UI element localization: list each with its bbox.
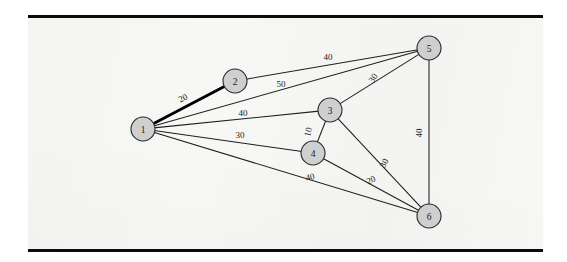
- graph-edge-1-6: [154, 132, 419, 213]
- node-layer: 123456: [131, 36, 441, 228]
- graph-node-1: 1: [131, 117, 155, 141]
- edge-weight-3-6: 30: [377, 156, 390, 169]
- edge-weight-4-6: 20: [365, 173, 378, 186]
- node-label-5: 5: [427, 44, 432, 54]
- graph-edge-1-4: [154, 131, 302, 152]
- node-label-4: 4: [311, 149, 316, 159]
- graph-edge-3-4: [317, 120, 326, 143]
- graph-edge-1-3: [154, 111, 319, 128]
- edge-layer: [153, 50, 429, 213]
- graph-canvas: 2040503040103030204040 123456: [0, 0, 567, 262]
- graph-node-5: 5: [417, 36, 441, 60]
- edge-weight-1-4: 30: [236, 130, 246, 140]
- node-label-3: 3: [328, 106, 333, 116]
- graph-node-3: 3: [318, 98, 342, 122]
- node-label-2: 2: [233, 77, 238, 87]
- graph-edge-1-2: [153, 86, 225, 124]
- edge-weight-1-3: 40: [239, 108, 249, 118]
- edge-weight-1-2: 20: [177, 91, 190, 104]
- edge-weight-2-5: 40: [324, 52, 334, 62]
- figure-root: 2040503040103030204040 123456: [0, 0, 567, 262]
- edge-weight-5-6: 40: [414, 128, 424, 138]
- graph-node-4: 4: [301, 141, 325, 165]
- edge-weight-1-5: 50: [277, 79, 287, 89]
- edge-weight-3-4: 10: [302, 126, 314, 137]
- graph-node-2: 2: [223, 69, 247, 93]
- edge-weight-layer: 2040503040103030204040: [177, 52, 424, 186]
- node-label-1: 1: [141, 125, 146, 135]
- graph-node-6: 6: [417, 204, 441, 228]
- edge-weight-3-5: 30: [366, 71, 380, 85]
- node-label-6: 6: [427, 212, 432, 222]
